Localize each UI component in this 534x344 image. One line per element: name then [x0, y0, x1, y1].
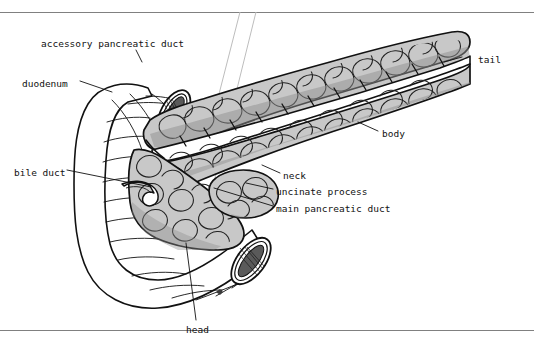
- leader-neck: [262, 165, 280, 173]
- label-head: head: [186, 324, 209, 335]
- pancreas-illustration: [0, 0, 534, 344]
- label-main-pancreatic-duct: main pancreatic duct: [276, 203, 390, 214]
- label-tail: tail: [478, 54, 501, 65]
- label-uncinate-process: uncinate process: [276, 186, 368, 197]
- label-body: body: [382, 128, 405, 139]
- label-duodenum: duodenum: [22, 78, 68, 89]
- leader-body: [358, 122, 378, 131]
- label-accessory-pancreatic-duct: accessory pancreatic duct: [41, 38, 184, 49]
- diagram-page: accessory pancreatic duct duodenum bile …: [0, 0, 534, 344]
- leader-duodenum: [80, 81, 112, 92]
- label-neck: neck: [283, 170, 306, 181]
- leader-accessory-pancreatic-duct: [136, 50, 142, 62]
- label-bile-duct: bile duct: [14, 167, 65, 178]
